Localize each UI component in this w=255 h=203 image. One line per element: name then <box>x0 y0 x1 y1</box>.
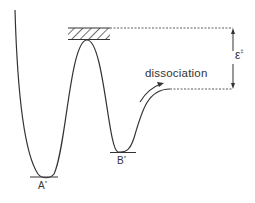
well-a-label: A* <box>38 181 47 191</box>
well-b-letter: B <box>117 155 124 166</box>
dissociation-label: dissociation <box>145 68 208 80</box>
dissociation-arrow-icon <box>140 82 164 102</box>
diagram-graphic <box>0 0 255 203</box>
double-dagger-superscript: ‡ <box>240 48 243 54</box>
potential-energy-diagram: dissociation A* B* ε‡ <box>0 0 255 203</box>
well-a-superscript: * <box>45 180 47 186</box>
well-b-label: B* <box>117 156 126 166</box>
well-b-superscript: * <box>124 155 126 161</box>
well-a-letter: A <box>38 180 45 191</box>
transition-state-hatch <box>68 28 110 40</box>
barrier-energy-label: ε‡ <box>235 49 244 61</box>
